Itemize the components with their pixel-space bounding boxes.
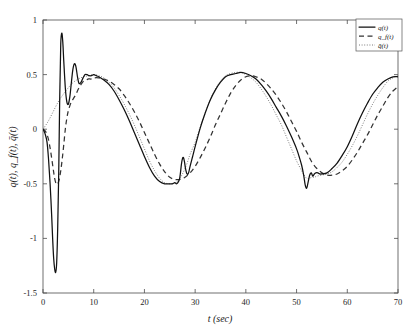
legend-label: q_f(t)	[378, 33, 394, 41]
x-axis-title: t (sec)	[208, 313, 233, 325]
chart-legend: q(t)q_f(t)q̄(t)	[356, 19, 402, 51]
series-line	[43, 33, 398, 272]
legend-label: q(t)	[378, 24, 389, 32]
series-line	[43, 72, 398, 184]
y-tick-label: -0.5	[24, 179, 37, 189]
y-tick-label: -1.5	[24, 288, 37, 298]
y-tick-label: -1	[30, 233, 37, 243]
x-tick-label: 10	[89, 297, 98, 307]
x-tick-label: 20	[140, 297, 149, 307]
x-tick-label: 0	[41, 297, 45, 307]
axes-group	[43, 20, 398, 293]
x-tick-label: 70	[394, 297, 403, 307]
plot-frame	[43, 20, 398, 293]
y-axis-title: q(t), q_f(t), q̄(t)	[7, 126, 19, 188]
x-tick-label: 30	[191, 297, 200, 307]
y-tick-label: 0	[33, 124, 37, 134]
y-tick-labels: 10.50-0.5-1-1.5	[24, 15, 37, 298]
figure-canvas: 010203040506070 10.50-0.5-1-1.5 q(t)q_f(…	[0, 0, 415, 332]
x-tick-label: 40	[242, 297, 251, 307]
legend-label: q̄(t)	[378, 42, 389, 50]
data-series-group	[43, 33, 398, 272]
tick-marks-group	[43, 20, 398, 293]
x-tick-label: 60	[343, 297, 352, 307]
y-tick-label: 1	[33, 15, 37, 25]
x-tick-labels: 010203040506070	[41, 297, 402, 307]
y-tick-label: 0.5	[26, 70, 37, 80]
x-tick-label: 50	[292, 297, 301, 307]
chart-plot: 010203040506070 10.50-0.5-1-1.5 q(t)q_f(…	[0, 0, 415, 332]
series-line	[43, 76, 398, 185]
